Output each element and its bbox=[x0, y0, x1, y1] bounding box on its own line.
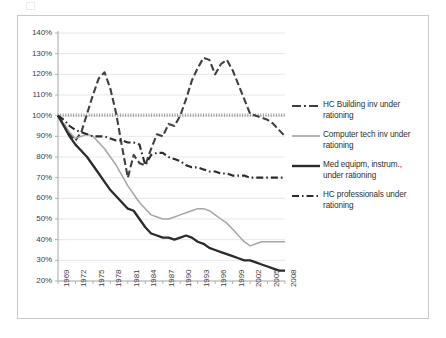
legend-item-med-equipm[interactable]: Med equipm, instrum.,under rationing bbox=[292, 160, 432, 181]
legend-swatch-black-solid-icon bbox=[292, 160, 320, 172]
x-tick-label: 1999 bbox=[237, 270, 246, 287]
y-tick-label: 70% bbox=[20, 173, 52, 182]
x-tick-label: 1990 bbox=[184, 270, 193, 287]
y-tick-label: 40% bbox=[20, 235, 52, 244]
x-tick-label: 2002 bbox=[254, 270, 263, 287]
x-tick-label: 2005 bbox=[272, 270, 281, 287]
x-tick-label: 1987 bbox=[167, 270, 176, 287]
x-tick-label: 1981 bbox=[132, 270, 141, 287]
y-tick-label: 110% bbox=[20, 90, 52, 99]
x-tick-label: 1975 bbox=[97, 270, 106, 287]
x-tick-label: 1984 bbox=[149, 270, 158, 287]
legend-swatch-dashed-icon bbox=[292, 100, 320, 112]
y-tick-label: 140% bbox=[20, 28, 52, 37]
y-tick-label: 50% bbox=[20, 214, 52, 223]
legend-item-hc-professionals[interactable]: HC professionals underrationing bbox=[292, 190, 432, 211]
legend-label-computer-tech-inv: Computer tech inv underrationing bbox=[323, 130, 410, 151]
y-tick-label: 30% bbox=[20, 255, 52, 264]
legend-item-computer-tech-inv[interactable]: Computer tech inv underrationing bbox=[292, 130, 432, 151]
series-line-2 bbox=[58, 116, 285, 271]
y-tick-label: 130% bbox=[20, 49, 52, 58]
x-tick-label: 1978 bbox=[114, 270, 123, 287]
gridlines bbox=[58, 33, 285, 281]
y-tick-label: 120% bbox=[20, 69, 52, 78]
legend-swatch-dashdot-icon bbox=[292, 190, 320, 202]
legend-swatch-gray-solid-icon bbox=[292, 130, 320, 142]
legend-item-hc-building-inv[interactable]: HC Building inv underrationing bbox=[292, 100, 432, 121]
series-line-0 bbox=[58, 58, 285, 178]
y-tick-label: 90% bbox=[20, 131, 52, 140]
x-tick-label: 1993 bbox=[202, 270, 211, 287]
x-tick-label: 1996 bbox=[219, 270, 228, 287]
y-tick-label: 80% bbox=[20, 152, 52, 161]
y-tick-label: 20% bbox=[20, 276, 52, 285]
x-tick-label: 2008 bbox=[289, 270, 298, 287]
x-tick-label: 1972 bbox=[79, 270, 88, 287]
x-tick-label: 1969 bbox=[62, 270, 71, 287]
y-tick-label: 60% bbox=[20, 193, 52, 202]
legend-label-hc-building-inv: HC Building inv underrationing bbox=[323, 100, 400, 121]
chart-figure: 140%130%120%110%100%90%80%70%60%50%40%30… bbox=[0, 0, 446, 338]
x-tick-marks bbox=[58, 113, 284, 116]
y-tick-label: 100% bbox=[20, 111, 52, 120]
data-series-layer bbox=[58, 58, 285, 271]
legend-label-hc-professionals: HC professionals underrationing bbox=[323, 190, 406, 211]
legend-label-med-equipm: Med equipm, instrum.,under rationing bbox=[323, 160, 402, 181]
chart-legend: HC Building inv underrationing Computer … bbox=[292, 100, 432, 220]
